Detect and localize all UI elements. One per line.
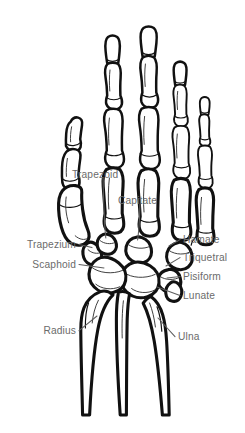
- bone-middle-phalanx-little: [199, 114, 210, 146]
- hand-wrist-skeleton-illustration: Trapezoid Capitate Trapezium Scaphoid Ra…: [0, 0, 245, 433]
- label-radius: Radius: [43, 325, 76, 336]
- bone-middle-phalanx-index: [105, 63, 122, 110]
- label-capitate: Capitate: [118, 195, 157, 206]
- bone-middle-phalanx-ring: [173, 85, 188, 127]
- label-trapezoid: Trapezoid: [72, 169, 118, 180]
- label-pisiform: Pisiform: [183, 271, 221, 282]
- bone-trapezoid: [97, 234, 116, 254]
- label-trapezium: Trapezium: [27, 239, 76, 250]
- label-hamate: Hamate: [183, 234, 220, 245]
- label-triquetral: Triquetral: [183, 252, 227, 263]
- label-ulna: Ulna: [178, 331, 200, 342]
- bone-capitate: [126, 237, 152, 263]
- bone-proximal-phalanx-middle: [139, 107, 160, 169]
- bone-proximal-phalanx-index: [104, 109, 124, 168]
- bone-middle-phalanx-middle: [140, 56, 158, 108]
- bone-proximal-phalanx-little: [198, 146, 213, 189]
- bone-metacarpal-4-ring: [171, 179, 191, 241]
- label-lunate: Lunate: [183, 290, 215, 301]
- label-scaphoid: Scaphoid: [32, 259, 76, 270]
- anatomy-figure-page: Trapezoid Capitate Trapezium Scaphoid Ra…: [0, 0, 245, 433]
- bone-distal-phalanx-thumb: [66, 117, 82, 151]
- bone-scaphoid: [89, 257, 126, 293]
- bone-proximal-phalanx-ring: [173, 126, 191, 179]
